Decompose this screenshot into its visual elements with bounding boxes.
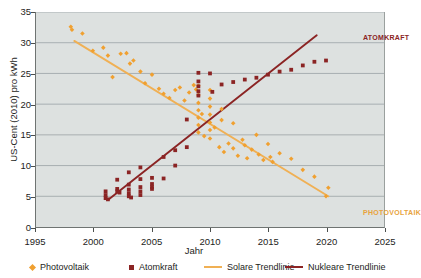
data-point <box>226 141 231 146</box>
data-point <box>139 166 143 170</box>
x-tick-mark <box>210 228 211 232</box>
data-point <box>313 60 317 64</box>
legend-label: Nukleare Trendlinie <box>308 263 386 272</box>
data-point <box>139 177 143 181</box>
data-point <box>80 31 85 36</box>
data-point <box>118 191 122 195</box>
x-tick-mark <box>35 228 36 232</box>
data-point <box>208 72 212 76</box>
data-point <box>217 145 222 150</box>
data-point <box>139 193 143 197</box>
chart-legend: PhotovoltaikAtomkraftSolare TrendlinieNu… <box>0 259 388 275</box>
data-point <box>301 168 306 173</box>
annotation-atomkraft: ATOMKRAFT <box>363 34 409 41</box>
annotation-photovoltaik: PHOTOVOLTAIK <box>363 209 421 216</box>
data-point <box>289 157 294 162</box>
x-axis-title: Jahr <box>0 245 388 256</box>
data-point <box>104 189 108 193</box>
data-point <box>185 145 189 149</box>
data-point <box>301 64 305 68</box>
data-point <box>187 90 192 95</box>
data-point <box>101 45 106 50</box>
legend-label: Photovoltaik <box>40 263 89 272</box>
data-point <box>127 188 131 192</box>
data-point <box>157 86 162 91</box>
data-point <box>268 155 273 160</box>
data-point <box>220 83 224 87</box>
y-tick-label: 5 <box>7 192 31 202</box>
data-point <box>124 51 129 56</box>
data-point <box>231 80 235 84</box>
data-point <box>106 53 111 58</box>
data-point <box>139 185 143 189</box>
line-marker-icon <box>204 266 222 268</box>
data-point <box>219 118 224 123</box>
data-point <box>106 197 110 201</box>
data-point <box>197 84 201 88</box>
data-point <box>245 156 250 161</box>
data-point <box>173 164 177 168</box>
data-point <box>182 98 187 103</box>
data-point <box>312 174 317 179</box>
data-point <box>277 151 282 156</box>
plot-canvas <box>36 12 384 227</box>
data-point <box>185 118 189 122</box>
x-tick-mark <box>152 228 153 232</box>
data-point <box>128 61 133 66</box>
data-point <box>150 187 154 191</box>
data-point <box>129 196 133 200</box>
data-point <box>210 90 214 94</box>
data-point <box>197 80 201 84</box>
data-point <box>139 189 143 193</box>
data-point <box>324 59 328 63</box>
data-point <box>196 108 201 113</box>
data-point <box>255 76 259 80</box>
data-point <box>208 136 213 141</box>
series-photovoltaik <box>69 24 331 198</box>
data-point <box>278 70 282 74</box>
trendline-nukleare-trendlinie <box>108 35 317 200</box>
data-point <box>200 112 205 117</box>
data-point <box>118 51 123 56</box>
y-axis-title: US-Cent (2010) pro kWh <box>8 35 19 185</box>
data-point <box>178 85 183 90</box>
plot-area: ATOMKRAFT PHOTOVOLTAIK <box>35 12 385 228</box>
data-point <box>150 176 154 180</box>
data-point <box>236 153 241 158</box>
x-tick-mark <box>268 228 269 232</box>
data-point <box>127 183 131 187</box>
data-point <box>254 133 259 138</box>
y-tick-label: 35 <box>7 7 31 17</box>
data-point <box>208 96 213 101</box>
x-tick-mark <box>93 228 94 232</box>
data-point <box>208 104 213 109</box>
data-point <box>197 89 201 93</box>
legend-label: Atomkraft <box>139 263 178 272</box>
data-point <box>231 146 236 151</box>
legend-item-solare-trendlinie[interactable]: Solare Trendlinie <box>204 263 295 272</box>
data-point <box>162 155 166 159</box>
diamond-marker-icon <box>29 263 36 270</box>
data-point <box>197 94 201 98</box>
data-point <box>115 178 119 182</box>
legend-item-nukleare-trendlinie[interactable]: Nukleare Trendlinie <box>285 263 386 272</box>
data-point <box>240 137 245 142</box>
data-point <box>197 71 201 75</box>
legend-item-photovoltaik[interactable]: Photovoltaik <box>30 263 89 272</box>
x-tick-mark <box>327 228 328 232</box>
data-point <box>110 75 115 80</box>
data-point <box>231 121 236 126</box>
data-point <box>173 88 178 93</box>
data-point <box>289 68 293 72</box>
data-point <box>127 170 131 174</box>
data-point <box>173 148 177 152</box>
data-point <box>266 73 270 77</box>
x-tick-mark <box>385 228 386 232</box>
data-point <box>191 83 196 88</box>
trendline-solare-trendlinie <box>74 41 328 196</box>
data-point <box>222 150 227 155</box>
data-point <box>131 58 136 63</box>
data-point <box>208 112 213 117</box>
legend-item-atomkraft[interactable]: Atomkraft <box>129 263 178 272</box>
